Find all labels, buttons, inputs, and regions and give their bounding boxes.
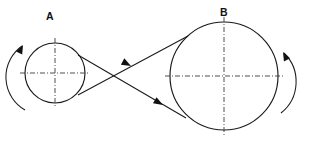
pulley-b-rotation-arrow-icon [280, 50, 290, 61]
belt-drive-diagram: A B [0, 0, 311, 147]
pulley-b-rotation-arc [281, 53, 296, 113]
pulley-a-rotation-group [6, 44, 26, 110]
pulley-a-rotation-arc [6, 46, 25, 110]
pulley-a-group [20, 38, 90, 108]
pulley-b-label: B [220, 6, 228, 18]
pulley-b-group [165, 17, 283, 135]
crossed-belt-group [78, 36, 188, 118]
belt-drive-illustration [0, 0, 311, 147]
pulley-a-label: A [46, 10, 54, 22]
belt-lower-direction-arrow-icon [153, 97, 165, 108]
pulley-b-rotation-group [280, 50, 296, 113]
belt-upper-direction-arrow-icon [121, 58, 133, 69]
